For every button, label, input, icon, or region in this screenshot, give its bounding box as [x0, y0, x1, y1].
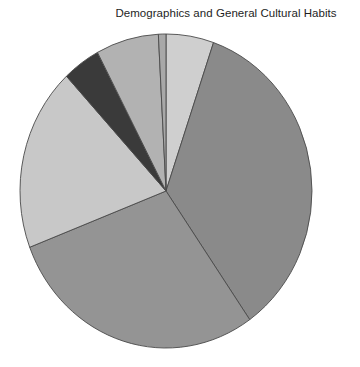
pie-chart-canvas [0, 0, 360, 367]
pie-slice-group [20, 34, 312, 348]
pie-chart-figure: Demographics and General Cultural Habits [0, 0, 360, 367]
